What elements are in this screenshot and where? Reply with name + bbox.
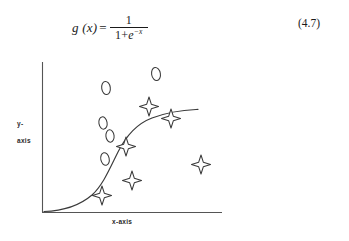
denominator-prefix: 1+: [115, 28, 128, 42]
zero-marker: [105, 129, 114, 142]
star-marker: [140, 97, 159, 116]
zero-marker: [100, 152, 111, 166]
sigmoid-scatter-figure: y- axis x-axis: [0, 52, 349, 241]
equation-lhs: g (x): [72, 20, 97, 36]
equation-block: g (x) = 1 1+e−x (4.7): [0, 6, 349, 48]
class-0-markers: [98, 67, 162, 166]
chart-canvas: [0, 52, 349, 241]
denominator-exponent: −x: [134, 27, 143, 36]
equation-equals-sign: =: [99, 20, 107, 36]
fraction-denominator: 1+e−x: [111, 28, 147, 41]
equation-number: (4.7): [298, 17, 320, 29]
zero-marker: [151, 67, 162, 82]
star-marker: [123, 171, 142, 190]
equation-fraction: 1 1+e−x: [110, 14, 148, 41]
star-marker: [192, 155, 211, 174]
zero-marker: [101, 81, 111, 95]
star-marker: [93, 186, 112, 205]
figure-page: g (x) = 1 1+e−x (4.7) y- axis x-axis: [0, 0, 349, 241]
zero-marker: [98, 116, 108, 130]
sigmoid-equation: g (x) = 1 1+e−x: [72, 14, 148, 41]
sigmoid-curve: [44, 109, 198, 211]
fraction-numerator: 1: [120, 14, 138, 27]
class-1-markers: [93, 97, 211, 205]
star-marker: [117, 137, 136, 156]
